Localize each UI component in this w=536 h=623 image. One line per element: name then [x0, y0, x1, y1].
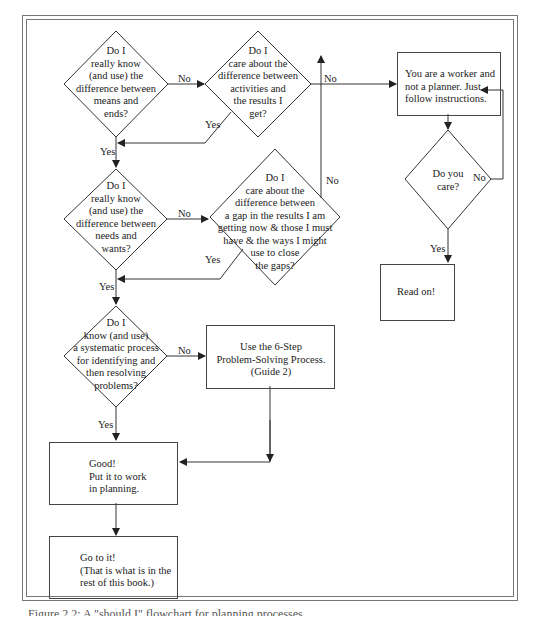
- decision-systematic-text: Do I know (and use) a systematic process…: [62, 317, 170, 392]
- label-no-activities: No: [324, 73, 337, 84]
- box-go-to-it-text: Go to it! (That is what is in the rest o…: [80, 552, 176, 590]
- label-no-gap: No: [326, 175, 339, 186]
- label-no-needs: No: [178, 208, 191, 219]
- decision-gap-text: Do I care about the difference between a…: [210, 172, 340, 272]
- label-yes-needs: Yes: [99, 281, 114, 292]
- box-worker-text: You are a worker and not a planner. Just…: [405, 68, 500, 106]
- label-yes-means: Yes: [100, 146, 115, 157]
- decision-do-you-care-text: Do you care?: [415, 168, 481, 193]
- decision-means-ends-text: Do I really know (and use) the differenc…: [66, 45, 166, 120]
- label-yes-gap: Yes: [205, 254, 220, 265]
- label-yes-care: Yes: [430, 243, 445, 254]
- decision-needs-wants-text: Do I really know (and use) the differenc…: [66, 180, 166, 255]
- box-good-text: Good! Put it to work in planning.: [89, 458, 179, 496]
- label-no-means: No: [178, 73, 191, 84]
- label-yes-activities: Yes: [205, 119, 220, 130]
- box-read-on-text: Read on!: [397, 286, 457, 299]
- label-no-care: No: [473, 172, 486, 183]
- label-yes-systematic: Yes: [98, 419, 113, 430]
- box-six-step-text: Use the 6-Step Problem-Solving Process. …: [212, 341, 330, 379]
- label-no-systematic: No: [178, 345, 191, 356]
- decision-activities-results-text: Do I care about the difference between a…: [206, 45, 310, 120]
